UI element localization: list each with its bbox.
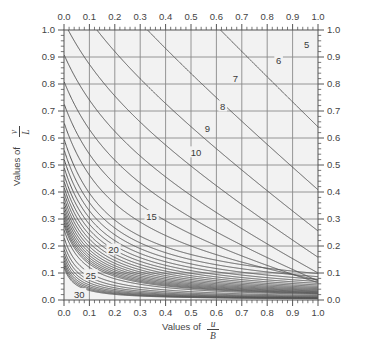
contour-chart-figure: 567891015202530 0.00.00.10.10.20.20.30.3…	[0, 0, 378, 357]
y-axis-tick-label-right: 0.4	[327, 186, 340, 197]
y-axis-tick-label-right: 0.2	[327, 240, 340, 251]
x-axis-tick-label-bottom: 0.6	[210, 307, 223, 318]
x-axis-tick-label-top: 0.6	[210, 11, 223, 22]
contour-label: 15	[146, 211, 157, 222]
x-axis-tick-label-bottom: 0.9	[286, 307, 299, 318]
x-axis-tick-label-bottom: 0.7	[235, 307, 248, 318]
y-axis-tick-label-left: 0.7	[42, 105, 55, 116]
y-axis-tick-label-left: 0.4	[42, 186, 55, 197]
contour-label: 9	[205, 123, 210, 134]
y-axis-title-denominator: L	[21, 129, 31, 135]
x-axis-tick-label-top: 0.8	[261, 11, 274, 22]
x-axis-tick-label-top: 0.2	[108, 11, 121, 22]
x-axis-tick-label-top: 0.1	[83, 11, 96, 22]
y-axis-tick-label-right: 0.9	[327, 51, 340, 62]
y-axis-tick-label-left: 0.3	[42, 213, 55, 224]
y-axis-tick-label-right: 0.7	[327, 105, 340, 116]
y-axis-tick-label-right: 1.0	[327, 24, 340, 35]
y-axis-tick-label-left: 0.5	[42, 159, 55, 170]
y-axis-tick-label-left: 0.1	[42, 267, 55, 278]
x-axis-title-prefix: Values of	[162, 321, 201, 332]
y-axis-tick-label-right: 0.0	[327, 294, 340, 305]
x-axis-tick-label-bottom: 0.1	[83, 307, 96, 318]
x-axis-tick-label-top: 0.5	[184, 11, 197, 22]
y-axis-tick-label-right: 0.3	[327, 213, 340, 224]
chart-canvas: 567891015202530 0.00.00.10.10.20.20.30.3…	[0, 0, 378, 357]
y-axis-tick-label-left: 0.8	[42, 78, 55, 89]
x-axis-title-numerator: u	[211, 319, 216, 329]
x-axis-tick-label-top: 0.0	[57, 11, 70, 22]
x-axis-tick-label-top: 0.3	[134, 11, 147, 22]
x-axis-tick-label-bottom: 0.2	[108, 307, 121, 318]
x-axis-tick-label-top: 0.4	[159, 11, 172, 22]
y-axis-tick-label-left: 1.0	[42, 24, 55, 35]
y-axis-tick-label-right: 0.1	[327, 267, 340, 278]
y-axis-tick-label-right: 0.6	[327, 132, 340, 143]
contour-label: 6	[276, 55, 281, 66]
x-axis-tick-label-bottom: 0.0	[57, 307, 70, 318]
contour-label: 7	[233, 73, 238, 84]
contour-label: 8	[220, 101, 225, 112]
x-axis-tick-label-bottom: 0.5	[184, 307, 197, 318]
x-axis-tick-label-top: 0.7	[235, 11, 248, 22]
contour-label: 30	[74, 289, 85, 300]
y-axis-title-prefix: Values of	[11, 147, 22, 186]
y-axis-tick-label-left: 0.2	[42, 240, 55, 251]
contour-label: 20	[108, 244, 119, 255]
y-axis-tick-label-left: 0.6	[42, 132, 55, 143]
x-axis-tick-label-top: 1.0	[311, 11, 324, 22]
y-axis-tick-label-right: 0.5	[327, 159, 340, 170]
contour-label: 5	[304, 39, 309, 50]
x-axis-tick-label-bottom: 1.0	[311, 307, 324, 318]
y-axis-tick-label-left: 0.9	[42, 51, 55, 62]
x-axis-tick-label-bottom: 0.8	[261, 307, 274, 318]
x-axis-tick-label-bottom: 0.3	[134, 307, 147, 318]
contour-label: 10	[191, 147, 202, 158]
y-axis-tick-label-left: 0.0	[42, 294, 55, 305]
contour-label: 25	[85, 270, 96, 281]
y-axis-tick-label-right: 0.8	[327, 78, 340, 89]
x-axis-tick-label-bottom: 0.4	[159, 307, 172, 318]
x-axis-tick-label-top: 0.9	[286, 11, 299, 22]
x-axis-title-denominator: B	[210, 331, 216, 341]
